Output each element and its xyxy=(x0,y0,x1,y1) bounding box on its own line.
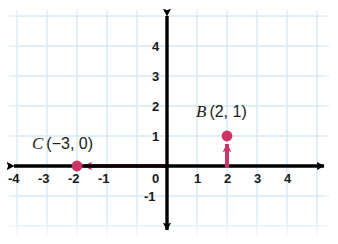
origin-label: 0 xyxy=(152,172,159,185)
point-b-coords: (2, 1) xyxy=(209,103,246,120)
point-c-coords: (−3, 0) xyxy=(46,135,93,152)
point-c-dot[interactable] xyxy=(72,161,83,172)
x-tick-label--3: -3 xyxy=(38,172,50,185)
y-tick-label-3: 3 xyxy=(152,70,159,83)
grid-fade-vertical xyxy=(0,0,338,244)
y-tick-label-4: 4 xyxy=(152,40,159,53)
point-c-name: C xyxy=(32,134,46,153)
x-tick-label--2: -2 xyxy=(68,172,80,185)
point-b-label: B(2, 1) xyxy=(196,103,247,120)
x-tick-label--1: -1 xyxy=(98,172,110,185)
x-tick-label-1: 1 xyxy=(194,172,201,185)
x-tick-label-3: 3 xyxy=(254,172,261,185)
y-tick-label--1: -1 xyxy=(144,190,156,203)
coordinate-plane-figure: -4 -3 -2 -1 1 2 3 4 0 4 3 2 1 -1 B(2, 1)… xyxy=(0,0,338,244)
x-tick-label-4: 4 xyxy=(284,172,291,185)
x-tick-label-2: 2 xyxy=(224,172,231,185)
point-b-dot[interactable] xyxy=(222,131,233,142)
point-b-name: B xyxy=(196,102,209,121)
x-tick-label--4: -4 xyxy=(8,172,20,185)
graph-canvas xyxy=(0,0,338,244)
y-tick-label-2: 2 xyxy=(152,100,159,113)
point-c-label: C(−3, 0) xyxy=(32,135,93,152)
y-tick-label-1: 1 xyxy=(152,130,159,143)
